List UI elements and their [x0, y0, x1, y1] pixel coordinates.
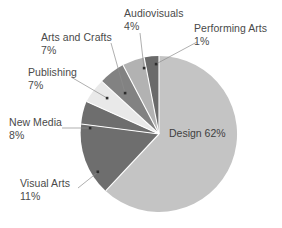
slice-label-design-percent: 62%	[205, 127, 226, 139]
leader-dot-audiovisuals	[143, 67, 146, 70]
leader-dot-publishing	[106, 97, 109, 100]
slice-label-audiovisuals: Audiovisuals 4%	[124, 7, 184, 32]
slice-label-performing-arts-percent: 1%	[194, 35, 267, 48]
slice-label-publishing-percent: 7%	[28, 79, 77, 92]
slice-label-visual-arts: Visual Arts 11%	[20, 177, 70, 202]
leader-dot-visual-arts	[97, 171, 100, 174]
pie-chart-figure: Audiovisuals 4% Performing Arts 1% Arts …	[0, 0, 282, 228]
leader-dot-new-media	[89, 127, 92, 130]
slice-label-design-name: Design	[169, 127, 202, 139]
slice-label-performing-arts: Performing Arts 1%	[194, 22, 267, 47]
slice-label-new-media-name: New Media	[9, 116, 62, 128]
leader-dot-performing-arts	[155, 63, 158, 66]
slice-label-publishing-name: Publishing	[28, 66, 77, 78]
slice-label-audiovisuals-name: Audiovisuals	[124, 7, 184, 19]
slice-label-performing-arts-name: Performing Arts	[194, 22, 267, 34]
slice-label-visual-arts-name: Visual Arts	[20, 177, 70, 189]
slice-label-publishing: Publishing 7%	[28, 66, 77, 91]
slice-label-visual-arts-percent: 11%	[20, 190, 70, 203]
slice-label-audiovisuals-percent: 4%	[124, 20, 184, 33]
slice-label-design: Design 62%	[169, 127, 226, 140]
leader-line-visual-arts	[78, 172, 98, 188]
slice-label-arts-and-crafts-name: Arts and Crafts	[41, 31, 112, 43]
slice-label-arts-and-crafts: Arts and Crafts 7%	[41, 31, 112, 56]
slice-label-arts-and-crafts-percent: 7%	[41, 44, 112, 57]
leader-dot-arts-and-crafts	[124, 92, 127, 95]
slice-label-new-media-percent: 8%	[9, 129, 62, 142]
slice-label-new-media: New Media 8%	[9, 116, 62, 141]
